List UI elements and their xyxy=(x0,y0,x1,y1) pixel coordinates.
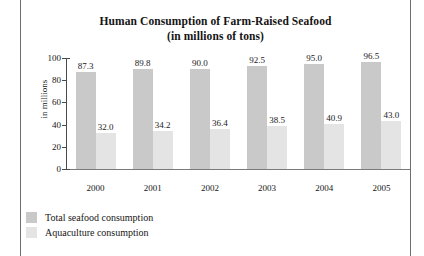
bar-group: 87.332.0 xyxy=(67,58,124,169)
bar-value-label: 90.0 xyxy=(184,58,216,68)
y-axis-tick-label: 80 xyxy=(52,75,61,85)
bar-group: 95.040.9 xyxy=(296,58,353,169)
bar-group: 90.036.4 xyxy=(181,58,238,169)
legend-item[interactable]: Aquaculture consumption xyxy=(26,225,406,240)
bar-aquaculture[interactable] xyxy=(381,121,401,169)
y-axis-tick-mark xyxy=(62,102,66,103)
bar-aquaculture[interactable] xyxy=(210,129,230,169)
bar-aquaculture[interactable] xyxy=(96,133,116,169)
legend-item[interactable]: Total seafood consumption xyxy=(26,210,406,225)
bar-total-seafood[interactable] xyxy=(76,72,96,169)
y-axis-tick-label: 0 xyxy=(57,164,62,174)
bar-groups: 87.332.089.834.290.036.492.538.595.040.9… xyxy=(67,58,410,169)
bar-aquaculture[interactable] xyxy=(153,131,173,169)
x-axis-tick-labels: 200020012002200320042005 xyxy=(67,183,410,197)
legend-swatch xyxy=(26,227,37,238)
y-axis-end-cap xyxy=(66,58,70,59)
bar-value-label: 87.3 xyxy=(70,61,102,71)
bar-value-label: 34.2 xyxy=(147,120,179,130)
bar-group: 96.543.0 xyxy=(353,58,410,169)
x-axis-line xyxy=(66,169,410,170)
x-axis-tick-label: 2000 xyxy=(67,183,124,193)
bar-value-label: 96.5 xyxy=(355,51,387,61)
x-axis-tick-label: 2001 xyxy=(124,183,181,193)
x-axis-tick-label: 2002 xyxy=(181,183,238,193)
x-axis-tick-label: 2005 xyxy=(353,183,410,193)
x-axis-tick-label: 2003 xyxy=(239,183,296,193)
bar-value-label: 95.0 xyxy=(298,53,330,63)
bar-group: 92.538.5 xyxy=(239,58,296,169)
bar-aquaculture[interactable] xyxy=(267,126,287,169)
bar-value-label: 43.0 xyxy=(375,110,407,120)
page-border-right xyxy=(410,0,411,256)
y-axis-tick-label: 60 xyxy=(52,97,61,107)
y-axis-tick-label: 100 xyxy=(48,53,62,63)
legend-label: Aquaculture consumption xyxy=(45,227,149,238)
bar-value-label: 92.5 xyxy=(241,55,273,65)
chart-legend: Total seafood consumptionAquaculture con… xyxy=(26,210,406,240)
y-axis-tick-mark xyxy=(62,80,66,81)
x-axis-tick-label: 2004 xyxy=(296,183,353,193)
bar-value-label: 89.8 xyxy=(127,58,159,68)
bar-value-label: 38.5 xyxy=(261,115,293,125)
y-axis-end-cap xyxy=(66,169,70,170)
bar-group: 89.834.2 xyxy=(124,58,181,169)
chart-subtitle: (in millions of tons) xyxy=(21,29,410,44)
plot-area: in millions 020406080100 87.332.089.834.… xyxy=(21,58,410,180)
y-axis-tick-mark xyxy=(62,125,66,126)
y-axis-tick-labels: 020406080100 xyxy=(35,58,61,169)
y-axis-tick-label: 20 xyxy=(52,142,61,152)
chart-title-block: Human Consumption of Farm-Raised Seafood… xyxy=(21,14,410,44)
bar-aquaculture[interactable] xyxy=(324,124,344,169)
bar-value-label: 40.9 xyxy=(318,113,350,123)
legend-swatch xyxy=(26,212,37,223)
chart-title: Human Consumption of Farm-Raised Seafood xyxy=(21,14,410,29)
y-axis-tick-label: 40 xyxy=(52,120,61,130)
legend-label: Total seafood consumption xyxy=(45,212,153,223)
bar-value-label: 32.0 xyxy=(90,122,122,132)
chart-figure: Human Consumption of Farm-Raised Seafood… xyxy=(21,0,410,256)
bar-value-label: 36.4 xyxy=(204,118,236,128)
y-axis-tick-mark xyxy=(62,147,66,148)
